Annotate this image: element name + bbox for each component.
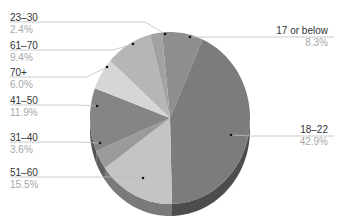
leader-dot — [99, 142, 102, 145]
label-41-50: 41–50 11.9% — [10, 95, 38, 119]
leader-dot — [106, 66, 109, 69]
label-name: 23–30 — [10, 12, 38, 24]
label-percent: 11.9% — [10, 107, 38, 119]
leader-dot — [189, 36, 192, 39]
label-51-60: 51–60 15.5% — [10, 167, 38, 191]
label-percent: 8.3% — [276, 37, 328, 49]
label-name: 51–60 — [10, 167, 38, 179]
label-18-22: 18–22 42.9% — [300, 124, 328, 148]
label-percent: 3.6% — [10, 144, 38, 156]
label-percent: 15.5% — [10, 179, 38, 191]
label-name: 17 or below — [276, 25, 328, 37]
leader-dot — [96, 105, 99, 108]
label-name: 18–22 — [300, 124, 328, 136]
label-name: 41–50 — [10, 95, 38, 107]
label-percent: 6.0% — [10, 79, 33, 91]
label-31-40: 31–40 3.6% — [10, 132, 38, 156]
leader-dot — [164, 33, 167, 36]
label-17-or-below: 17 or below 8.3% — [276, 25, 328, 49]
label-61-70: 61–70 9.4% — [10, 40, 38, 64]
leader-dot — [142, 177, 145, 180]
label-23-30: 23–30 2.4% — [10, 12, 38, 36]
label-percent: 2.4% — [10, 24, 38, 36]
label-70plus: 70+ 6.0% — [10, 67, 33, 91]
label-name: 70+ — [10, 67, 33, 79]
leader-dot — [132, 43, 135, 46]
leader-dot — [230, 134, 233, 137]
label-percent: 9.4% — [10, 52, 38, 64]
label-name: 61–70 — [10, 40, 38, 52]
label-percent: 42.9% — [300, 136, 328, 148]
label-name: 31–40 — [10, 132, 38, 144]
